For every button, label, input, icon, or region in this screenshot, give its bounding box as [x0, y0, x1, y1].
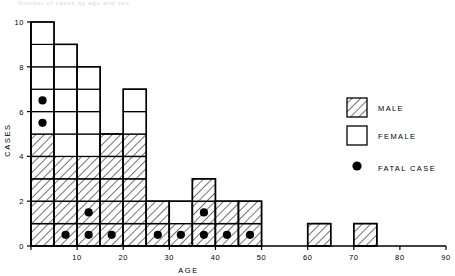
- bar-cell: [54, 134, 77, 156]
- legend-label: FATAL CASE: [378, 164, 436, 173]
- x-tick-label: 40: [211, 253, 221, 262]
- fatal-case-dot: [61, 231, 69, 239]
- bar-cell: [308, 224, 331, 246]
- fatal-case-dot: [108, 231, 116, 239]
- x-tick-label: 90: [441, 253, 451, 262]
- bar-cell: [215, 201, 238, 223]
- legend-layer: MALEFEMALEFATAL CASE: [347, 98, 436, 173]
- bar-cell: [123, 89, 146, 111]
- bar-cell: [54, 112, 77, 134]
- y-tick-label: 4: [19, 152, 24, 161]
- x-tick-label: 30: [165, 253, 175, 262]
- y-tick-label: 8: [19, 63, 24, 72]
- bar-cell: [31, 201, 54, 223]
- bar-cell: [77, 179, 100, 201]
- bar-cell: [31, 179, 54, 201]
- bar-cell: [123, 201, 146, 223]
- legend-swatch-fatal: [352, 161, 361, 170]
- bar-cell: [77, 156, 100, 178]
- x-tick-label: 10: [72, 253, 82, 262]
- bar-cell: [54, 201, 77, 223]
- bar-cell: [354, 224, 377, 246]
- bar-cell: [31, 134, 54, 156]
- y-tick-label: 2: [19, 197, 24, 206]
- x-tick-label: 50: [257, 253, 267, 262]
- y-tick-label: 6: [19, 108, 24, 117]
- bar-cell: [54, 156, 77, 178]
- bar-cell: [77, 112, 100, 134]
- fatal-case-dot: [85, 231, 93, 239]
- bar-cell: [239, 201, 262, 223]
- legend-label: FEMALE: [378, 132, 416, 141]
- bar-cell: [77, 89, 100, 111]
- fatal-case-dot: [246, 231, 254, 239]
- bar-cell: [100, 134, 123, 156]
- y-axis-title: CASES: [3, 123, 12, 156]
- bar-cell: [123, 134, 146, 156]
- bar-cell: [123, 156, 146, 178]
- bar-cell: [192, 179, 215, 201]
- bar-cell: [123, 179, 146, 201]
- y-tick-label: 10: [14, 18, 24, 27]
- x-tick-label: 60: [303, 253, 313, 262]
- x-tick-label: 80: [395, 253, 405, 262]
- legend-swatch-female: [347, 126, 367, 145]
- chart-container: Number of cases by age and sex 102030405…: [0, 0, 455, 276]
- bar-cell: [100, 179, 123, 201]
- bar-cell: [31, 156, 54, 178]
- fatal-case-dot: [200, 231, 208, 239]
- x-axis-title: AGE: [178, 266, 199, 275]
- fatal-case-dot: [38, 119, 46, 127]
- histogram-plot: 1020304050607080900246810AGECASES MALEFE…: [0, 0, 455, 276]
- bar-cell: [77, 67, 100, 89]
- bar-cell: [54, 89, 77, 111]
- fatal-case-dot: [200, 208, 208, 216]
- bar-cell: [31, 67, 54, 89]
- fatal-case-dot: [223, 231, 231, 239]
- legend-swatch-male: [347, 98, 367, 117]
- bar-cell: [54, 44, 77, 66]
- bar-cell: [54, 179, 77, 201]
- bar-cell: [100, 201, 123, 223]
- bar-cell: [100, 156, 123, 178]
- y-tick-label: 0: [19, 242, 24, 251]
- bar-cell: [123, 224, 146, 246]
- x-tick-label: 20: [118, 253, 128, 262]
- fatal-case-dot: [177, 231, 185, 239]
- bar-cell: [77, 134, 100, 156]
- bar-cell: [54, 67, 77, 89]
- bar-cell: [31, 22, 54, 44]
- bar-cell: [123, 112, 146, 134]
- fatal-case-dot: [85, 208, 93, 216]
- fatal-case-dot: [38, 96, 46, 104]
- bar-cell: [31, 224, 54, 246]
- legend-label: MALE: [378, 104, 404, 113]
- fatal-case-dot: [154, 231, 162, 239]
- bar-cell: [169, 201, 192, 223]
- x-tick-label: 70: [349, 253, 359, 262]
- bar-cell: [146, 201, 169, 223]
- bar-cell: [31, 44, 54, 66]
